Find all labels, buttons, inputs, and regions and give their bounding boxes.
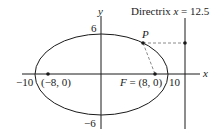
focus-right-label: F = (8, 0) — [119, 76, 163, 89]
directrix-label: Directrix x = 12.5 — [131, 5, 210, 17]
directrix-foot-point — [183, 41, 187, 45]
y-tick-6: 6 — [91, 22, 97, 34]
focus-left-label: (−8, 0) — [41, 76, 71, 89]
x-tick-10: 10 — [169, 76, 181, 88]
x-tick-neg10: −10 — [16, 76, 34, 88]
x-axis-label: x — [202, 67, 208, 79]
y-tick-neg6: −6 — [84, 117, 96, 129]
point-p — [141, 41, 145, 45]
dashed-p-to-focus — [143, 43, 155, 74]
ellipse-diagram: y x 6 −6 −10 10 (−8, 0) F = (8, 0) P Dir… — [0, 0, 221, 129]
y-axis-label: y — [97, 5, 103, 17]
point-p-label: P — [141, 28, 149, 40]
focus-right-coords: = (8, 0) — [127, 76, 163, 89]
